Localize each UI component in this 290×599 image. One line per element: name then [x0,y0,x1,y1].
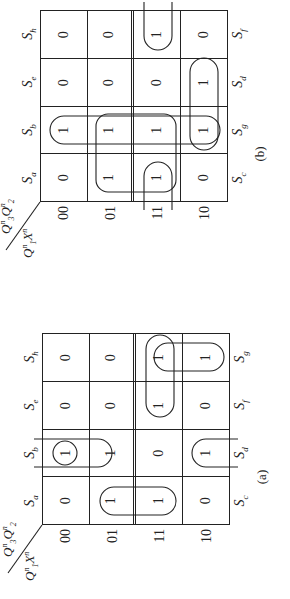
karnaugh-map-a: Qn3Qn2 Qn1Xn Sa Sb Se Sh 00 01 11 10 0 1… [0,285,290,585]
column-state-label-bottom: Sf [230,10,248,58]
row-code-label: 01 [89,529,136,555]
row-code-label: 11 [136,529,183,555]
axis-label-left: Qn1Xn [22,552,40,581]
column-state-label: Sa [20,154,38,202]
row-code-label: 10 [183,529,230,555]
column-state-label-bottom: Sc [230,154,248,202]
column-state-label: Sb [20,106,38,154]
column-state-label-bottom: Sf [232,381,250,429]
column-state-label: Sa [22,477,40,525]
row-code-label: 01 [87,206,134,232]
karnaugh-map-b: Qn3Qn2 Qn1Xn Sa Sb Se Sh 00 01 11 10 0 1… [0,0,290,262]
column-state-label: Se [22,381,40,429]
column-state-label-bottom: Sg [232,333,250,381]
column-state-label-bottom: Sc [232,477,250,525]
axis-label-top: Qn3Qn2 [0,199,16,234]
column-state-label: Se [20,58,38,106]
figure-caption: (b) [252,134,268,174]
column-state-label: Sh [20,10,38,58]
column-state-label-bottom: Sg [230,106,248,154]
grouping-loops [40,10,228,202]
grouping-loops [42,333,230,525]
row-code-label: 10 [181,206,228,232]
column-state-label: Sb [22,429,40,477]
figure-caption: (a) [254,457,270,497]
axis-label-top: Qn3Qn2 [0,522,18,557]
column-state-label: Sh [22,333,40,381]
column-state-label-bottom: Sd [230,58,248,106]
axis-label-left: Qn1Xn [20,229,38,258]
row-code-label: 11 [134,206,181,232]
column-state-label-bottom: Sd [232,429,250,477]
row-code-label: 00 [42,529,89,555]
row-code-label: 00 [40,206,87,232]
